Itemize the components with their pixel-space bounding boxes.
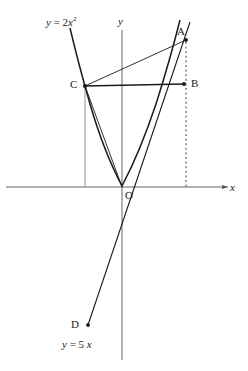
line-eq-variable: x [87,338,92,350]
line-eq-operator: = [70,338,76,350]
point-marker-a [184,38,188,42]
point-marker-c [83,84,87,88]
point-label-c: C [70,79,77,90]
line-equation-label: y = 5 x [62,339,92,350]
parabola-eq-operator: = [54,16,60,28]
segment-co [85,86,122,187]
math-figure: y = 2x2 y x A B C D O y = 5 x [0,0,248,371]
y-axis-label: y [118,16,123,27]
figure-canvas [0,0,248,371]
point-label-a: A [177,26,185,37]
parabola-eq-y: y [46,16,51,28]
point-label-d: D [71,319,79,330]
parabola-curve [70,20,180,186]
origin-label: O [125,190,133,201]
line-y-equals-5x [88,22,190,325]
line-eq-y: y [62,338,67,350]
point-marker-b [182,82,186,86]
parabola-equation-label: y = 2x2 [46,16,77,28]
x-axis-arrow-icon [222,185,228,189]
parabola-eq-exponent: 2 [73,15,77,23]
point-label-b: B [191,78,198,89]
x-axis-label: x [230,182,235,193]
line-eq-coefficient: 5 [79,338,85,350]
point-marker-d [86,323,90,327]
